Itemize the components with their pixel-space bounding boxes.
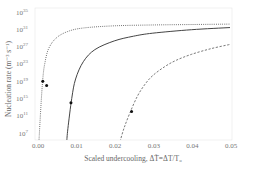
axes-frame	[35, 8, 232, 140]
y-tick-label: 1031	[16, 25, 29, 34]
y-axis-label: Nucleation rate (m⁻³ s⁻¹)	[4, 40, 13, 117]
y-tick-label: 107	[19, 129, 29, 138]
nucleation-rate-chart: 1071011101510191023102710311035 0.000.01…	[0, 0, 255, 171]
series-solid-line	[67, 28, 230, 142]
series-solid-marker	[69, 101, 72, 104]
x-tick-label: 0.02	[109, 142, 122, 150]
x-tick-label: 0.01	[70, 142, 83, 150]
series-dotted-marker	[41, 80, 44, 83]
y-tick-label: 1027	[16, 42, 29, 51]
y-tick-label: 1023	[16, 59, 29, 68]
series-dashed-marker	[130, 110, 133, 113]
x-tick-label: 0.00	[32, 142, 45, 150]
x-tick-label: 0.05	[225, 142, 238, 150]
series-dotted-marker	[45, 84, 48, 87]
y-tick-label: 1011	[16, 111, 28, 120]
series-dashed-line	[120, 44, 230, 141]
y-tick-label: 1015	[16, 94, 29, 103]
data-series	[39, 24, 230, 142]
x-tick-label: 0.04	[186, 142, 199, 150]
x-axis-ticks: 0.000.010.020.030.040.05	[32, 142, 238, 150]
x-tick-label: 0.03	[148, 142, 161, 150]
x-axis-label: Scaled undercooling, ΔT̃=ΔT/T₀	[84, 154, 182, 163]
y-tick-label: 1019	[16, 77, 29, 86]
series-dotted-line	[39, 24, 230, 142]
y-axis-ticks: 1071011101510191023102710311035	[16, 8, 29, 138]
y-tick-label: 1035	[16, 8, 29, 17]
